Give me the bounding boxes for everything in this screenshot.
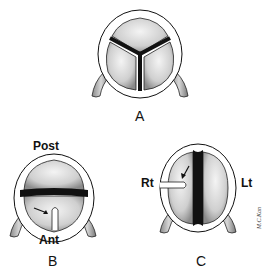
orientation-label-ant: Ant (39, 233, 59, 247)
panel-label-a: A (135, 108, 144, 124)
artist-signature: M.C.Kan (256, 207, 262, 229)
orientation-label-lt: Lt (241, 176, 252, 190)
commissure-line-icon (193, 150, 203, 226)
orientation-label-post: Post (33, 139, 59, 153)
raphe-icon (160, 182, 186, 188)
panel-label-b: B (48, 253, 57, 269)
panel-label-c: C (196, 253, 206, 269)
panel-a-valve (92, 10, 188, 98)
raphe-icon (52, 208, 58, 231)
panel-c-valve (160, 144, 236, 233)
orientation-label-rt: Rt (141, 176, 154, 190)
panel-b-valve (10, 154, 96, 242)
